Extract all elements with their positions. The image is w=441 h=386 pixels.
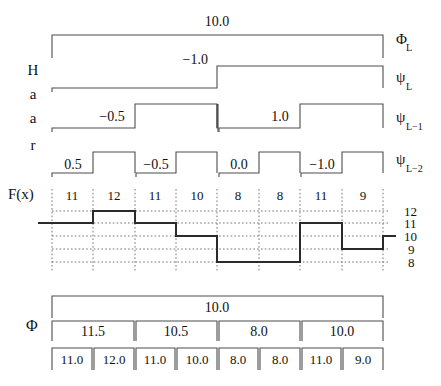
- recon-level2-value-7: 9.0: [355, 352, 371, 367]
- value-label-0: 11: [66, 188, 79, 203]
- psi-L-coefficient: −1.0: [183, 52, 208, 67]
- recon-level2-value-0: 11.0: [61, 352, 83, 367]
- recon-level2-value-2: 11.0: [144, 352, 166, 367]
- value-label-3: 10: [191, 188, 204, 203]
- psi-L-label: ψ: [396, 69, 406, 85]
- wavelet-row-L-2: 0.5 −0.5 0.0 −1.0 ψ L−2: [52, 151, 423, 177]
- psi-L1-coefficient-1: −0.5: [99, 109, 124, 124]
- phi-L-coefficient: 10.0: [205, 14, 230, 29]
- recon-level2-value-4: 8.0: [230, 352, 246, 367]
- psi-L2-coefficient-1: 0.5: [64, 157, 82, 172]
- recon-level2-row: 11.0 12.0 11.0 10.0 8.0 8.0 11.0 9.0: [52, 348, 383, 370]
- recon-level1-row: 11.5 10.5 8.0 10.0: [52, 321, 383, 341]
- psi-L2-label-subscript: L−2: [406, 163, 423, 174]
- psi-L1-label-subscript: L−1: [406, 121, 423, 132]
- value-label-5: 8: [277, 188, 284, 203]
- psi-L-label-subscript: L: [406, 81, 412, 92]
- wavelet-row-L: −1.0 ψ L: [52, 52, 412, 92]
- scaling-function-row: 10.0 Φ L: [52, 14, 412, 58]
- psi-L2-label: ψ: [396, 151, 406, 167]
- recon-level1-value-0: 11.5: [81, 324, 105, 339]
- haar-word-label: H a a r: [28, 62, 39, 153]
- haar-letter-h: H: [28, 62, 39, 78]
- recon-level2-value-6: 11.0: [310, 352, 332, 367]
- fx-axis-label: F(x): [8, 186, 34, 203]
- recon-level2-value-3: 10.0: [186, 352, 209, 367]
- haar-letter-a1: a: [30, 86, 37, 102]
- psi-L1-coefficient-2: 1.0: [271, 109, 289, 124]
- haar-wavelet-figure: H a a r 10.0 Φ L −1.0 ψ L −0.5 1.0 ψ L−: [0, 0, 441, 386]
- recon-level1-value-3: 10.0: [330, 324, 355, 339]
- value-label-4: 8: [235, 188, 242, 203]
- recon-level1-value-2: 8.0: [250, 324, 268, 339]
- phi-L-label-subscript: L: [406, 42, 412, 53]
- value-label-6: 11: [315, 188, 328, 203]
- ytick-8: 8: [408, 255, 415, 270]
- recon-level0-value: 10.0: [205, 300, 230, 315]
- haar-letter-r: r: [31, 137, 36, 153]
- value-label-1: 12: [108, 188, 121, 203]
- value-label-7: 9: [360, 188, 367, 203]
- phi-L-waveform: [52, 35, 383, 58]
- psi-L-waveform: [52, 66, 383, 92]
- psi-L1-waveform-right: [219, 104, 383, 132]
- recon-level2-value-5: 8.0: [272, 352, 288, 367]
- wavelet-row-L-1: −0.5 1.0 ψ L−1: [52, 104, 423, 132]
- phi-section-label: Φ: [26, 317, 38, 334]
- value-label-2: 11: [149, 188, 162, 203]
- psi-L1-label: ψ: [396, 109, 406, 125]
- recon-level1-value-1: 10.5: [164, 324, 189, 339]
- chart-horizontal-gridlines: [52, 211, 390, 262]
- haar-letter-a2: a: [30, 110, 37, 126]
- psi-L2-coefficient-2: −0.5: [143, 157, 168, 172]
- psi-L2-coefficient-3: 0.0: [230, 157, 248, 172]
- chart-y-tick-labels: 12 11 10 9 8: [404, 204, 417, 270]
- reconstruction-section: Φ 10.0 11.5 10.5 8.0 10.0: [26, 296, 383, 370]
- chart-value-labels: 11 12 11 10 8 8 11 9: [66, 188, 367, 203]
- psi-L1-waveform-left: [52, 104, 218, 132]
- recon-level2-value-1: 12.0: [103, 352, 126, 367]
- figure-canvas: H a a r 10.0 Φ L −1.0 ψ L −0.5 1.0 ψ L−: [0, 0, 441, 386]
- fx-chart: F(x) 11: [8, 186, 417, 272]
- psi-L2-coefficient-4: −1.0: [309, 157, 334, 172]
